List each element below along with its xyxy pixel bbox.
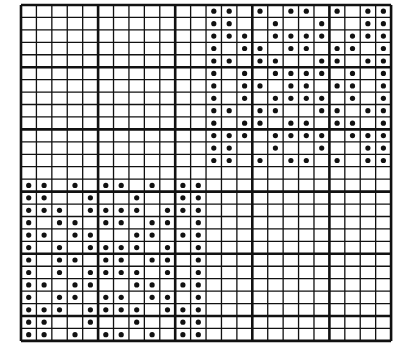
grid-dot <box>242 133 247 138</box>
grid-dot <box>257 58 262 63</box>
grid-dot <box>288 158 293 163</box>
grid-dot <box>103 245 108 250</box>
grid-dot <box>196 233 201 238</box>
grid-dot <box>381 146 386 151</box>
grid-dot <box>211 46 216 51</box>
grid-dot <box>57 257 62 262</box>
grid-dot <box>304 46 309 51</box>
grid-dot <box>211 121 216 126</box>
grid-dot <box>196 208 201 213</box>
grid-dot <box>288 121 293 126</box>
grid-dot <box>350 83 355 88</box>
grid-dot <box>26 332 31 337</box>
grid-dot <box>335 58 340 63</box>
grid-dot <box>304 158 309 163</box>
grid-dot <box>26 245 31 250</box>
grid-dot <box>165 208 170 213</box>
grid-dot <box>150 183 155 188</box>
grid-dot <box>211 146 216 151</box>
grid-dot <box>72 282 77 287</box>
grid-dot <box>42 208 47 213</box>
grid-dot <box>119 307 124 312</box>
grid-dot <box>88 307 93 312</box>
grid-dot <box>211 34 216 39</box>
grid-dot <box>26 282 31 287</box>
grid-dot <box>196 295 201 300</box>
grid-dot <box>26 220 31 225</box>
grid-dot <box>304 96 309 101</box>
grid-dot <box>42 233 47 238</box>
grid-dot <box>227 58 232 63</box>
grid-dot <box>350 71 355 76</box>
grid-dot <box>365 158 370 163</box>
grid-dot <box>88 270 93 275</box>
grid-dot <box>335 108 340 113</box>
grid-dot <box>350 46 355 51</box>
grid-dot <box>119 332 124 337</box>
grid-dot <box>57 208 62 213</box>
grid-dot <box>180 332 185 337</box>
grid-dot <box>273 146 278 151</box>
grid-dot <box>88 233 93 238</box>
grid-dot <box>273 96 278 101</box>
grid-dot <box>211 158 216 163</box>
grid-dot <box>26 270 31 275</box>
grid-dot <box>288 71 293 76</box>
grid-dot <box>257 46 262 51</box>
grid-dot <box>134 320 139 325</box>
grid-dot <box>26 183 31 188</box>
grid-dot <box>319 96 324 101</box>
grid-dot <box>211 71 216 76</box>
grid-dot <box>103 183 108 188</box>
grid-dot <box>196 195 201 200</box>
grid-dot <box>134 307 139 312</box>
grid-dot <box>26 233 31 238</box>
grid-dot <box>350 34 355 39</box>
dot-grid-chart <box>0 0 413 347</box>
grid-dot <box>381 34 386 39</box>
grid-dot <box>381 96 386 101</box>
grid-dot <box>180 183 185 188</box>
grid-dot <box>165 295 170 300</box>
grid-dot <box>42 307 47 312</box>
grid-dot <box>242 83 247 88</box>
grid-dot <box>304 9 309 14</box>
grid-dot <box>150 282 155 287</box>
grid-dot <box>304 71 309 76</box>
grid-dot <box>211 58 216 63</box>
grid-dot <box>196 332 201 337</box>
grid-dot <box>42 282 47 287</box>
grid-dot <box>350 96 355 101</box>
grid-dot <box>381 83 386 88</box>
grid-dot <box>381 158 386 163</box>
grid-dot <box>88 282 93 287</box>
grid-dot <box>288 46 293 51</box>
grid-dot <box>381 21 386 26</box>
grid-dot <box>196 183 201 188</box>
grid-dot <box>150 233 155 238</box>
grid-dot <box>381 58 386 63</box>
grid-dot <box>273 133 278 138</box>
grid-dot <box>119 183 124 188</box>
grid-dot <box>257 83 262 88</box>
grid-dot <box>119 257 124 262</box>
grid-dot <box>257 9 262 14</box>
grid-dot <box>72 295 77 300</box>
grid-dot <box>381 133 386 138</box>
grid-dot <box>273 34 278 39</box>
minor-grid-lines <box>21 5 391 341</box>
grid-dot <box>88 320 93 325</box>
grid-dot <box>180 307 185 312</box>
grid-dot <box>88 208 93 213</box>
grid-dot <box>319 146 324 151</box>
grid-dot <box>211 21 216 26</box>
grid-dot <box>72 332 77 337</box>
grid-dot <box>119 270 124 275</box>
grid-dot <box>273 58 278 63</box>
grid-dot <box>350 121 355 126</box>
grid-dot <box>57 245 62 250</box>
grid-dot <box>119 220 124 225</box>
grid-dot <box>365 9 370 14</box>
grid-dot <box>26 320 31 325</box>
grid-dot <box>273 71 278 76</box>
